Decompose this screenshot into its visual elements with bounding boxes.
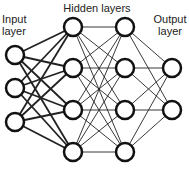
hidden1-node — [64, 59, 82, 77]
hidden2-node — [116, 101, 134, 119]
hidden-layers-label: Hidden layers — [52, 2, 142, 14]
hidden1-node — [64, 143, 82, 161]
hidden2-node — [116, 59, 134, 77]
input-label-line1: Input — [2, 13, 26, 25]
hidden2-node — [116, 143, 134, 161]
input-node — [6, 79, 24, 97]
output-layer-label: Output layer — [150, 13, 189, 37]
hidden1-node — [64, 101, 82, 119]
hidden2-node — [116, 18, 134, 36]
input-layer-label: Input layer — [2, 13, 26, 37]
input-node — [6, 113, 24, 131]
hidden1-node — [64, 18, 82, 36]
input-node — [6, 46, 24, 64]
output-label-line2: layer — [150, 25, 189, 37]
output-node — [163, 59, 181, 77]
output-label-line1: Output — [150, 13, 189, 25]
input-label-line2: layer — [2, 25, 26, 37]
neural-network-diagram: Input layer Hidden layers Output layer — [0, 0, 189, 169]
output-node — [163, 101, 181, 119]
